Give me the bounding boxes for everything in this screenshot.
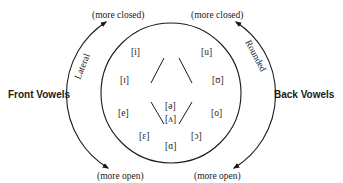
vowel-o: [o] [211, 108, 222, 118]
vowel-upsilon: [ʊ] [212, 75, 224, 85]
back-vowels-label: Back Vowels [274, 89, 335, 100]
lower-right-divider [179, 102, 192, 124]
lower-left-divider [151, 102, 164, 124]
bottom-left-more-open-label: (more open) [97, 171, 144, 182]
vowel-i: [i] [131, 47, 140, 57]
rounded-label: Rounded [243, 38, 268, 73]
vowel-e: [e] [118, 108, 129, 118]
vowel-script-a: [ɑ] [165, 141, 176, 151]
vowel-circle-diagram: (more closed) (more closed) (more open) … [0, 0, 343, 183]
vowel-open-o: [ɔ] [191, 131, 202, 141]
diagram-canvas: (more closed) (more closed) (more open) … [0, 0, 343, 183]
front-vowels-label: Front Vowels [8, 89, 70, 100]
top-right-more-closed-label: (more closed) [191, 10, 244, 21]
vowel-u: [u] [201, 47, 212, 57]
lateral-arc-arrow [66, 22, 108, 168]
bottom-right-more-open-label: (more open) [194, 171, 241, 182]
upper-right-divider [179, 58, 192, 83]
vowel-small-cap-i: [ɪ] [120, 75, 129, 85]
vowel-open-e: [ɛ] [139, 131, 149, 141]
vowel-schwa: [ə] [165, 101, 176, 111]
vowel-turned-v: [ʌ] [165, 114, 176, 124]
upper-left-divider [151, 58, 164, 83]
top-left-more-closed-label: (more closed) [92, 10, 145, 21]
